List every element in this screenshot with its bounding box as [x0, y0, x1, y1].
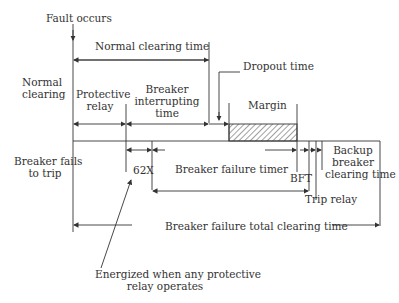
trip-relay-label: Trip relay: [305, 193, 357, 205]
bft-label: BFT: [290, 172, 312, 184]
normal-clearing-label: Normal clearing: [22, 76, 62, 100]
backup-breaker-label: Backup breaker clearing time: [325, 144, 381, 180]
breaker-fails-label: Breaker fails to trip: [14, 155, 76, 179]
62x-label: 62X: [133, 164, 154, 176]
breaker-interrupting-label: Breaker interrupting time: [132, 83, 202, 119]
breaker-failure-timer-label: Breaker failure timer: [175, 163, 288, 175]
margin-hatch: [229, 124, 297, 141]
total-clearing-label: Breaker failure total clearing time: [165, 220, 348, 232]
normal-clearing-time-label: Normal clearing time: [95, 40, 209, 52]
dropout-time-label: Dropout time: [243, 60, 314, 72]
margin-label: Margin: [248, 99, 287, 111]
energized-label: Energized when any protective relay oper…: [95, 268, 235, 292]
protective-relay-label: Protective relay: [76, 88, 124, 112]
fault-occurs-label: Fault occurs: [46, 12, 112, 24]
